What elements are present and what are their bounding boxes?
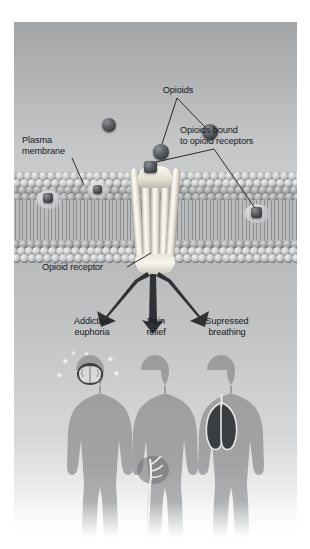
sparkle-icon: ✦ [71,349,76,357]
label-pain-relief: Pain relief [126,316,186,337]
illustration-scene: Opioids Plasma membrane Opioids bound to… [14,22,297,538]
label-supressed-breathing: Supressed breathing [188,316,266,337]
brain-highlight [77,363,103,385]
human-figures [14,22,297,538]
sparkle-icon: ✦ [62,358,69,366]
sparkle-icon: ✦ [84,350,89,358]
sparkle-icon: ✦ [107,356,114,364]
sparkle-icon: ✦ [113,370,120,378]
sparkle-icon: ✦ [56,372,63,380]
label-addictive-euphoria: Addictive euphoria [57,316,127,337]
opioid-receptor-figure: Opioids Plasma membrane Opioids bound to… [0,0,310,549]
